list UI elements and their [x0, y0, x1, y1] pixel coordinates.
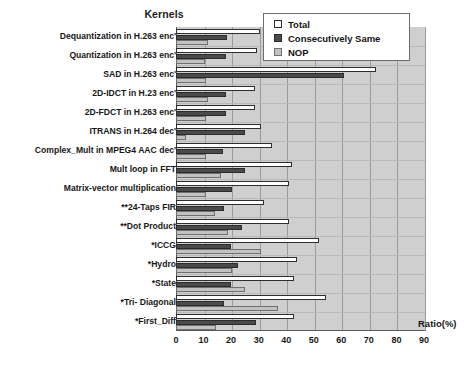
legend-item: Total — [264, 17, 409, 31]
legend-swatch-consecutively-same-icon — [274, 34, 282, 42]
bar-total — [176, 143, 272, 148]
category-label: *Tri- Diagonal — [121, 298, 176, 307]
legend-swatch-total-icon — [274, 20, 282, 28]
bar-same — [176, 92, 226, 97]
x-axis-tick-label: 10 — [192, 335, 216, 345]
x-axis-tick-label: 30 — [247, 335, 271, 345]
category-label: *Hydro — [148, 260, 176, 269]
category-label: Dequantization in H.263 enc' — [60, 32, 176, 41]
bar-nop — [176, 249, 261, 254]
bar-same — [176, 301, 224, 306]
chart-legend: Total Consecutively Same NOP — [263, 13, 410, 61]
bar-same — [176, 130, 245, 135]
row-separator — [177, 255, 425, 256]
bar-nop — [176, 325, 216, 330]
bar-total — [176, 124, 261, 129]
bar-same — [176, 320, 256, 325]
category-label: SAD in H.263 enc' — [103, 70, 176, 79]
legend-label: Consecutively Same — [288, 33, 380, 44]
category-label: ITRANS in H.264 dec' — [89, 127, 176, 136]
row-separator — [177, 160, 425, 161]
legend-item: NOP — [264, 45, 409, 59]
bar-total — [176, 295, 326, 300]
row-separator — [177, 198, 425, 199]
bar-total — [176, 181, 289, 186]
category-label: Mult loop in FFT — [110, 165, 176, 174]
bar-nop — [176, 268, 232, 273]
category-label: **24-Taps FIR — [121, 203, 176, 212]
row-separator — [177, 236, 425, 237]
bar-total — [176, 257, 297, 262]
x-axis-tick-label: 80 — [384, 335, 408, 345]
bar-same — [176, 282, 231, 287]
row-separator — [177, 293, 425, 294]
row-separator — [177, 274, 425, 275]
row-separator — [177, 179, 425, 180]
bar-same — [176, 244, 231, 249]
category-label: *First_Diff — [135, 317, 176, 326]
x-axis-tick-label: 90 — [412, 335, 436, 345]
row-separator — [177, 141, 425, 142]
row-separator — [177, 217, 425, 218]
row-separator — [177, 84, 425, 85]
bar-nop — [176, 59, 205, 64]
x-axis-tick-label: 60 — [329, 335, 353, 345]
row-separator — [177, 312, 425, 313]
gridline — [425, 27, 426, 331]
bar-nop — [176, 287, 245, 292]
bar-total — [176, 238, 319, 243]
category-label: Complex_Mult in MPEG4 AAC dec' — [35, 146, 176, 155]
bar-same — [176, 73, 344, 78]
bar-same — [176, 54, 226, 59]
x-axis-tick-label: 50 — [302, 335, 326, 345]
bar-total — [176, 276, 294, 281]
bar-nop — [176, 116, 206, 121]
bar-nop — [176, 97, 208, 102]
category-label: *State — [152, 279, 176, 288]
bar-nop — [176, 192, 206, 197]
bar-nop — [176, 230, 228, 235]
bar-nop — [176, 173, 221, 178]
row-separator — [177, 103, 425, 104]
bar-nop — [176, 211, 215, 216]
bar-nop — [176, 135, 186, 140]
legend-label: Total — [288, 19, 310, 30]
bar-total — [176, 314, 294, 319]
category-label: Quantization in H.263 enc' — [69, 51, 176, 60]
bar-same — [176, 168, 245, 173]
x-axis-tick-label: 40 — [274, 335, 298, 345]
category-label: **Dot Product — [120, 222, 176, 231]
bar-nop — [176, 78, 206, 83]
category-label: *ICCG — [151, 241, 176, 250]
bar-nop — [176, 40, 208, 45]
bar-same — [176, 206, 224, 211]
legend-swatch-nop-icon — [274, 48, 282, 56]
category-label: 2D-IDCT in H.23 enc' — [92, 89, 176, 98]
bar-same — [176, 111, 226, 116]
category-label: 2D-FDCT in H.263 enc' — [85, 108, 176, 117]
x-axis-tick-label: 20 — [219, 335, 243, 345]
bar-total — [176, 86, 255, 91]
category-axis-title: Kernels — [104, 8, 224, 20]
x-axis-title: Ratio(%) — [418, 318, 457, 329]
bar-same — [176, 187, 232, 192]
bar-same — [176, 149, 223, 154]
bar-total — [176, 219, 289, 224]
bar-nop — [176, 306, 278, 311]
row-separator — [177, 122, 425, 123]
bar-nop — [176, 154, 206, 159]
row-separator — [177, 65, 425, 66]
bar-total — [176, 48, 257, 53]
bar-total — [176, 105, 255, 110]
x-axis-tick-label: 0 — [164, 335, 188, 345]
bar-total — [176, 29, 260, 34]
bar-same — [176, 35, 227, 40]
legend-item: Consecutively Same — [264, 31, 409, 45]
category-label: Matrix-vector multiplication — [64, 184, 176, 193]
bar-total — [176, 162, 292, 167]
bar-total — [176, 67, 376, 72]
x-axis-tick-label: 70 — [357, 335, 381, 345]
legend-label: NOP — [288, 47, 309, 58]
bar-same — [176, 225, 242, 230]
bar-total — [176, 200, 264, 205]
